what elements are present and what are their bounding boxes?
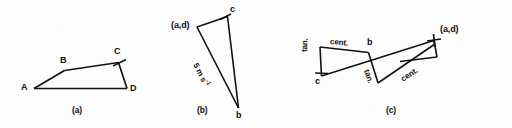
panel-a-caption: (a) <box>72 106 82 115</box>
panel-c-edge-tan-left <box>320 47 322 76</box>
panel-a-vertex-label-d: D <box>130 84 136 93</box>
panel-b-vertex-label-ad: (a,d) <box>171 21 190 30</box>
panel-a-edge-ab <box>34 71 65 89</box>
panel-a-vertex-label-a: A <box>21 83 27 92</box>
panel-a-edge-bc <box>65 63 119 71</box>
panel-a-shape <box>34 60 127 89</box>
panel-c-vertex-label-ad: (a,d) <box>440 25 459 34</box>
panel-b-tick-c <box>220 14 231 20</box>
panel-b-vertex-label-b: b <box>236 111 241 120</box>
panel-a-vertex-label-b: B <box>60 56 66 65</box>
panel-c-tick-c <box>315 73 328 74</box>
panel-c-cent-left-label: cent. <box>330 38 349 48</box>
panel-c-edge-close <box>400 57 437 62</box>
panel-c-vertex-label-c: c <box>315 77 320 86</box>
panel-b-vertex-label-c: c <box>230 5 235 14</box>
panel-b-edge-c-b <box>228 17 239 109</box>
panel-b-shape <box>197 14 239 108</box>
panel-c-edge-cent-left <box>320 47 369 53</box>
panel-c-vertex-label-b: b <box>367 38 372 47</box>
panel-b-caption: (b) <box>197 106 208 115</box>
panel-a-edge-cd <box>119 63 128 89</box>
panel-c-tan-left-label: tan. <box>301 38 309 52</box>
panel-a-vertex-label-c: C <box>114 47 120 56</box>
panel-c-caption: (c) <box>386 106 396 115</box>
figure-container: A B C D (a) (a,d) c b 5 m s-1 (b) tan. c… <box>0 0 512 128</box>
